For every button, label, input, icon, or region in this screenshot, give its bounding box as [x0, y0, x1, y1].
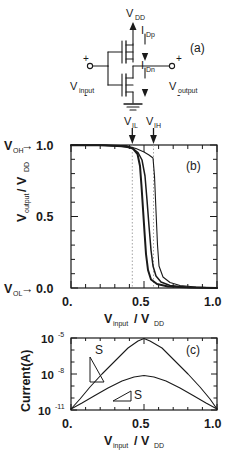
- xlabel-b-main: V: [104, 312, 113, 326]
- xlabel-b-group: V input / V DD: [104, 312, 164, 328]
- voh-label: V: [4, 139, 13, 153]
- ylabel-b-sub1: output: [23, 193, 31, 213]
- panel-a-circuit: V DD I Dp I Dn + - V input + - V output …: [0, 0, 233, 118]
- vih-label: V: [146, 115, 154, 127]
- xtick-c-3: 1.0: [204, 417, 221, 431]
- panel-c-label: (c): [186, 343, 200, 357]
- low-leakage-current-curve: [71, 376, 217, 410]
- xlabel-c-group: V input / V DD: [104, 434, 164, 450]
- vtc-svg: V OH → V OL → 1.0 0.5 0.0 0. 0.5 1.0 V I…: [0, 114, 233, 336]
- xlabel-b-sub1: input: [113, 320, 128, 328]
- vinput-label: V: [70, 80, 78, 92]
- vdd-label: V: [126, 7, 134, 19]
- idn-arrowhead-icon: [142, 89, 148, 97]
- idn-label: I: [141, 59, 144, 71]
- current-svg: S S 10 -5 10 -8 10 -11 0. 0.5 1.0: [0, 330, 233, 458]
- xtick-b-3: 1.0: [204, 295, 221, 309]
- idp-sub: Dp: [146, 31, 155, 39]
- slope-label-upper: S: [95, 343, 103, 357]
- vol-arrow-icon: →: [21, 282, 34, 296]
- xlabel-c-sub2: DD: [154, 442, 164, 449]
- input-plus-sign: +: [83, 53, 89, 64]
- ylabel-b-main: V: [15, 213, 29, 222]
- xlabel-c-main: V: [104, 434, 113, 448]
- slope-label-lower: S: [134, 388, 142, 402]
- panel-b-vtc-chart: V OH → V OL → 1.0 0.5 0.0 0. 0.5 1.0 V I…: [0, 114, 233, 336]
- xlabel-c-sub1: input: [113, 442, 128, 450]
- voh-arrow-icon: →: [21, 139, 34, 153]
- figure-container: V DD I Dp I Dn + - V input + - V output …: [0, 0, 233, 458]
- panel-c-current-chart: S S 10 -5 10 -8 10 -11 0. 0.5 1.0: [0, 330, 233, 458]
- idp-label: I: [141, 24, 144, 36]
- voutput-sub: output: [178, 87, 198, 95]
- panel-a-label: (a): [190, 41, 205, 55]
- vol-label: V: [4, 282, 13, 296]
- idn-sub: Dn: [146, 66, 155, 73]
- vil-label: V: [124, 115, 132, 127]
- ytick-b-1: 1.0: [36, 139, 53, 153]
- ylabel-b-sub2: DD: [23, 162, 30, 172]
- voutput-label: V: [169, 80, 177, 92]
- panel-b-label: (b): [186, 159, 201, 173]
- ytick-b-2: 0.5: [36, 210, 53, 224]
- ytick-c-3: 10: [38, 405, 51, 417]
- ylabel-c: Current(A): [19, 350, 33, 413]
- circuit-svg: V DD I Dp I Dn + - V input + - V output …: [0, 0, 233, 118]
- vih-arrowhead-icon: [150, 135, 157, 144]
- slope-triangle-lower: [113, 391, 131, 401]
- output-terminal-node: [169, 63, 174, 68]
- vdd-arrow-icon: [130, 22, 137, 30]
- ylabel-b-group: V output / V DD: [15, 162, 31, 222]
- ytick-c-1: 10: [41, 333, 54, 345]
- vdd-sub: DD: [135, 14, 145, 21]
- vih-sub: IH: [154, 122, 161, 129]
- ytick-b-3: 0.0: [36, 282, 53, 296]
- output-plus-sign: +: [176, 53, 182, 64]
- xtick-c-2: 0.5: [132, 417, 149, 431]
- ytick-c-2-group: 10 -8: [41, 367, 64, 381]
- xtick-b-1: 0.: [62, 295, 72, 309]
- ytick-c-2-exp: -8: [58, 367, 64, 374]
- xlabel-b-slash: / V: [134, 312, 150, 326]
- vil-arrowhead-icon: [129, 135, 136, 144]
- ytick-c-2: 10: [41, 369, 54, 381]
- ytick-c-1-exp: -5: [58, 331, 64, 338]
- vinput-sub: input: [79, 87, 94, 95]
- xtick-b-2: 0.5: [132, 295, 149, 309]
- ylabel-b-slash: / V: [15, 176, 29, 192]
- ytick-c-3-group: 10 -11: [38, 403, 65, 417]
- xtick-c-1: 0.: [62, 417, 72, 431]
- vil-sub: IL: [132, 122, 138, 129]
- ytick-c-1-group: 10 -5: [41, 331, 64, 345]
- xlabel-b-sub2: DD: [154, 320, 164, 327]
- input-terminal-node: [87, 63, 92, 68]
- ytick-c-3-exp: -11: [55, 403, 65, 410]
- ylabel-c-group: Current(A): [19, 350, 33, 413]
- xlabel-c-slash: / V: [134, 434, 150, 448]
- slope-triangle-upper: [90, 357, 104, 382]
